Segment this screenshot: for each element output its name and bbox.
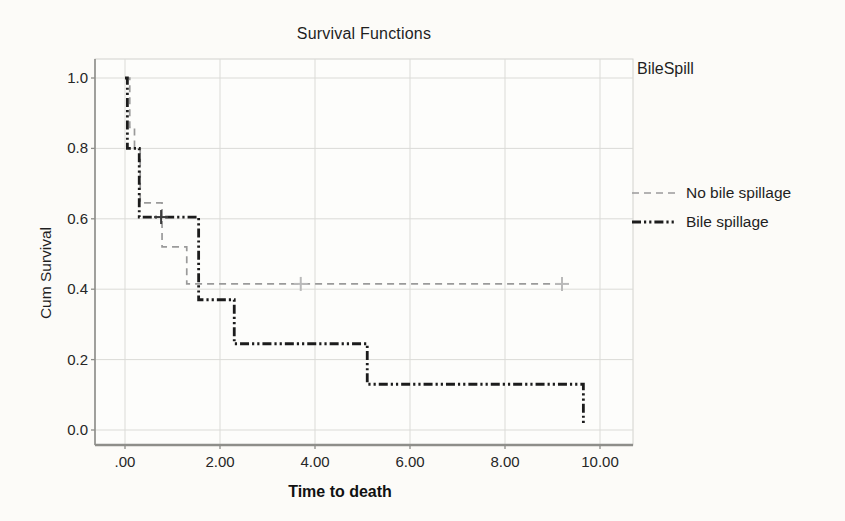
y-tick-label: 0.6 [38, 210, 88, 227]
legend-swatch-dash-dot-dot-icon [631, 217, 677, 227]
y-tick-label: 0.2 [38, 351, 88, 368]
x-tick-label: 4.00 [287, 453, 343, 470]
chart-title: Survival Functions [0, 25, 728, 43]
legend: No bile spillageBile spillage [631, 178, 791, 236]
legend-title: BileSpill [637, 60, 694, 78]
x-tick-label: 10.00 [572, 453, 628, 470]
plot-frame [95, 59, 633, 445]
x-tick-label: 8.00 [477, 453, 533, 470]
legend-swatch-dashed-icon [631, 188, 677, 198]
y-tick-label: 0.0 [38, 421, 88, 438]
legend-entry: No bile spillage [631, 178, 791, 207]
y-tick-label: 0.8 [38, 139, 88, 156]
x-axis-label: Time to death [225, 483, 455, 501]
x-tick-label: 2.00 [192, 453, 248, 470]
plot-area [0, 0, 845, 521]
legend-entry-label: Bile spillage [686, 213, 769, 231]
legend-entry: Bile spillage [631, 207, 791, 236]
figure: Survival Functions Cum Survival Time to … [0, 0, 845, 521]
y-tick-label: 0.4 [38, 280, 88, 297]
x-tick-label: 6.00 [382, 453, 438, 470]
legend-entry-label: No bile spillage [686, 184, 791, 202]
x-tick-label: .00 [97, 453, 153, 470]
y-tick-label: 1.0 [38, 69, 88, 86]
